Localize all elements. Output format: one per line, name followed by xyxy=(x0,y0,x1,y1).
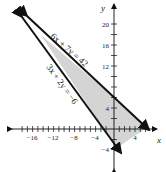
shaded-region xyxy=(41,35,148,148)
graph: 6x + 7y = 42 3x + 2y = −6 x y −16 −12 −8… xyxy=(0,0,166,172)
tick-ym4: −4 xyxy=(102,146,110,154)
x-axis-label: x xyxy=(156,135,161,145)
tick-m4: −4 xyxy=(91,134,99,142)
tick-m16: −16 xyxy=(27,134,38,142)
tick-m8: −8 xyxy=(70,134,78,142)
tick-y12: 12 xyxy=(102,63,110,71)
line-3x-2y-neg6 xyxy=(22,17,121,153)
tick-y20: 20 xyxy=(102,21,110,29)
tick-y4: 4 xyxy=(106,105,110,113)
y-axis-label: y xyxy=(100,3,105,13)
line-6x-7y-42 xyxy=(27,16,149,130)
tick-m12: −12 xyxy=(48,134,59,142)
tick-y16: 16 xyxy=(102,42,110,50)
tick-4: 4 xyxy=(133,134,137,142)
